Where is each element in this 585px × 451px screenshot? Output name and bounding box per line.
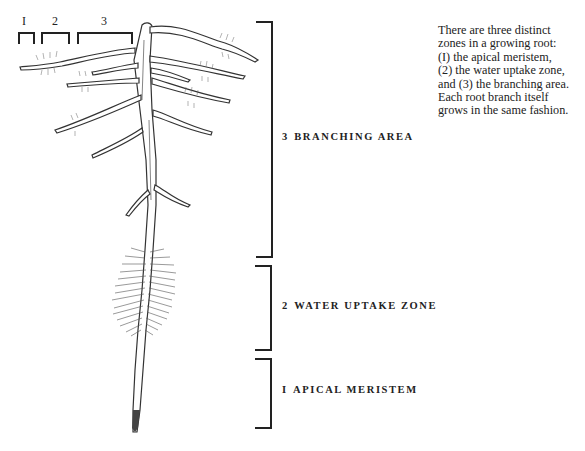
caption-line: There are three distinct — [438, 24, 585, 37]
figure-caption: There are three distinct zones in a grow… — [438, 24, 585, 118]
root-zones-figure: I 2 3 3BRANCHING AREA 2WATER UPTAKE ZONE… — [0, 0, 585, 451]
top-brackets — [19, 33, 132, 44]
zone-bracket-1-icon — [255, 359, 271, 428]
caption-line: Each root branch itself — [438, 91, 585, 104]
zone-number: 3 — [282, 131, 287, 142]
branches-left — [20, 48, 150, 216]
top-bracket-label-3: 3 — [101, 14, 107, 29]
zone-number: I — [282, 384, 286, 395]
top-bracket-label-2: 2 — [52, 14, 58, 29]
zone-name: APICAL MERISTEM — [293, 384, 418, 395]
zone-label-water-uptake-zone: 2WATER UPTAKE ZONE — [282, 300, 437, 311]
caption-line: grows in the same fashion. — [438, 104, 585, 117]
bracket-2-icon — [42, 33, 69, 44]
zone-number: 2 — [282, 300, 287, 311]
zone-label-apical-meristem: IAPICAL MERISTEM — [282, 384, 418, 395]
caption-line: (2) the water uptake zone, — [438, 64, 585, 77]
zone-bracket-2-icon — [255, 266, 271, 350]
zone-name: BRANCHING AREA — [294, 131, 414, 142]
zone-bracket-3-icon — [256, 22, 272, 257]
zone-label-branching-area: 3BRANCHING AREA — [282, 131, 414, 142]
zone-brackets — [255, 22, 272, 428]
zone-name: WATER UPTAKE ZONE — [294, 300, 437, 311]
caption-line: (I) the apical meristem, — [438, 51, 585, 64]
caption-line: and (3) the branching area. — [438, 78, 585, 91]
caption-line: zones in a growing root: — [438, 37, 585, 50]
bracket-3-icon — [78, 33, 132, 44]
top-bracket-label-1: I — [22, 14, 26, 29]
bracket-1-icon — [19, 33, 34, 44]
branches-right — [150, 26, 258, 207]
